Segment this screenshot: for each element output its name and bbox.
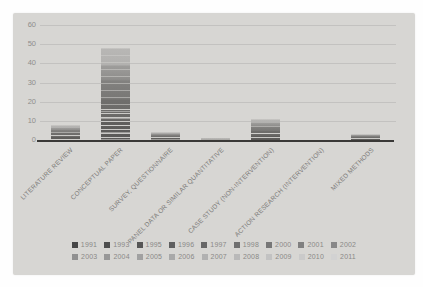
x-axis-line bbox=[37, 140, 394, 143]
legend-item-1991: 1991 bbox=[72, 241, 97, 248]
y-tick-label-10: 10 bbox=[14, 117, 36, 125]
legend-swatch-1991 bbox=[72, 242, 78, 248]
legend-item-2008: 2008 bbox=[234, 253, 259, 260]
legend-year-label: 2011 bbox=[340, 253, 356, 260]
legend-year-label: 1993 bbox=[113, 241, 129, 248]
legend-item-1997: 1997 bbox=[201, 241, 226, 248]
legend-swatch-2010 bbox=[299, 254, 305, 260]
y-tick-label-50: 50 bbox=[14, 40, 36, 48]
legend-item-1996: 1996 bbox=[169, 241, 194, 248]
legend-item-1995: 1995 bbox=[137, 241, 162, 248]
legend-swatch-1993 bbox=[104, 242, 110, 248]
legend-year-label: 2005 bbox=[146, 253, 162, 260]
bar-conceptual-paper bbox=[101, 48, 130, 140]
y-tick-label-20: 20 bbox=[14, 98, 36, 106]
chart-photo: 0102030405060 LITERATURE REVIEWCONCEPTUA… bbox=[13, 13, 415, 275]
legend-swatch-2008 bbox=[234, 254, 240, 260]
legend-item-2002: 2002 bbox=[331, 241, 356, 248]
legend-swatch-1995 bbox=[137, 242, 143, 248]
legend-row-2: 200320042005200620072008200920102011 bbox=[72, 253, 356, 260]
bar-case-study-non-intervention bbox=[251, 119, 280, 140]
legend-item-2000: 2000 bbox=[266, 241, 291, 248]
gridline-20 bbox=[40, 102, 396, 103]
gridline-60 bbox=[40, 25, 396, 26]
legend-swatch-2001 bbox=[298, 242, 304, 248]
y-tick-label-30: 30 bbox=[14, 79, 36, 87]
legend-year-label: 2007 bbox=[211, 253, 227, 260]
legend-item-1998: 1998 bbox=[234, 241, 259, 248]
legend-year-label: 2008 bbox=[243, 253, 259, 260]
legend-year-label: 1998 bbox=[243, 241, 259, 248]
gridline-10 bbox=[40, 121, 396, 122]
legend-swatch-1996 bbox=[169, 242, 175, 248]
legend-year-label: 1996 bbox=[178, 241, 194, 248]
y-tick-label-40: 40 bbox=[14, 59, 36, 67]
legend-year-label: 2010 bbox=[308, 253, 324, 260]
legend-swatch-2003 bbox=[72, 254, 78, 260]
gridline-50 bbox=[40, 44, 396, 45]
legend-item-2007: 2007 bbox=[202, 253, 227, 260]
legend-swatch-2004 bbox=[104, 254, 110, 260]
legend-swatch-1998 bbox=[234, 242, 240, 248]
gridline-40 bbox=[40, 63, 396, 64]
legend-year-label: 2004 bbox=[113, 253, 129, 260]
bar-literature-review bbox=[51, 125, 80, 140]
legend-year-label: 1997 bbox=[210, 241, 226, 248]
legend-item-2011: 2011 bbox=[331, 253, 356, 260]
legend-item-2001: 2001 bbox=[298, 241, 323, 248]
legend-swatch-1997 bbox=[201, 242, 207, 248]
legend-year-label: 1995 bbox=[146, 241, 162, 248]
legend-item-2004: 2004 bbox=[104, 253, 129, 260]
y-tick-label-0: 0 bbox=[14, 136, 36, 144]
legend-item-2009: 2009 bbox=[266, 253, 291, 260]
legend-year-label: 2000 bbox=[275, 241, 291, 248]
legend-year-label: 2001 bbox=[307, 241, 323, 248]
legend-year-label: 2003 bbox=[81, 253, 97, 260]
legend-swatch-2005 bbox=[137, 254, 143, 260]
legend-year-label: 2006 bbox=[178, 253, 194, 260]
legend-item-2003: 2003 bbox=[72, 253, 97, 260]
legend: 1991199319951996199719982000200120022003… bbox=[13, 241, 415, 260]
legend-item-2006: 2006 bbox=[169, 253, 194, 260]
plot-area bbox=[40, 25, 391, 140]
legend-item-2005: 2005 bbox=[137, 253, 162, 260]
legend-item-2010: 2010 bbox=[299, 253, 324, 260]
legend-swatch-2006 bbox=[169, 254, 175, 260]
legend-swatch-2009 bbox=[266, 254, 272, 260]
gridline-30 bbox=[40, 83, 396, 84]
legend-year-label: 1991 bbox=[81, 241, 97, 248]
scanned-figure-page: 0102030405060 LITERATURE REVIEWCONCEPTUA… bbox=[0, 0, 423, 287]
legend-swatch-2007 bbox=[202, 254, 208, 260]
legend-swatch-2011 bbox=[331, 254, 337, 260]
legend-swatch-2000 bbox=[266, 242, 272, 248]
y-tick-label-60: 60 bbox=[14, 21, 36, 29]
legend-year-label: 2002 bbox=[340, 241, 356, 248]
legend-swatch-2002 bbox=[331, 242, 337, 248]
legend-year-label: 2009 bbox=[275, 253, 291, 260]
legend-row-1: 199119931995199619971998200020012002 bbox=[72, 241, 356, 248]
legend-item-1993: 1993 bbox=[104, 241, 129, 248]
